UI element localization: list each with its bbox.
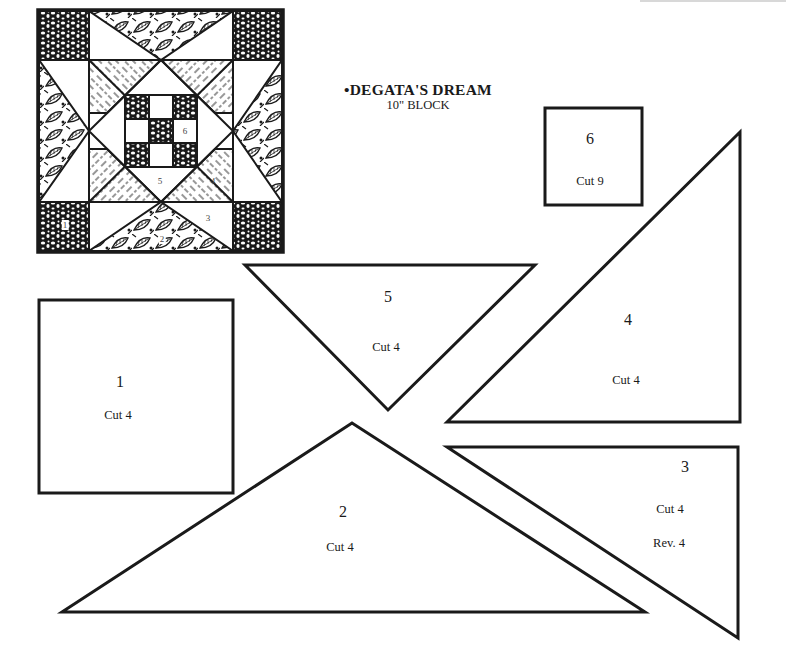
block-label-6: 6 [183, 126, 188, 136]
piece-1-template [39, 300, 233, 493]
piece-6-cut: Cut 9 [576, 174, 603, 189]
pattern-title: •DEGATA'S DREAM 10" BLOCK [318, 82, 518, 111]
piece-2-cut: Cut 4 [326, 540, 353, 555]
piece-6-template [545, 108, 642, 205]
pattern-name: •DEGATA'S DREAM [318, 82, 518, 98]
piece-3-reverse: Rev. 4 [653, 536, 685, 551]
block-label-3: 3 [206, 213, 211, 223]
piece-5-number: 5 [384, 288, 392, 306]
piece-4-number: 4 [624, 311, 632, 329]
piece-3-cut: Cut 4 [656, 502, 683, 517]
piece-5-cut: Cut 4 [372, 340, 399, 355]
block-label-5: 5 [158, 176, 163, 186]
piece-4-cut: Cut 4 [612, 373, 639, 388]
block-label-1: 1 [62, 220, 69, 230]
block-label-4: 4 [211, 176, 216, 186]
piece-1-number: 1 [116, 373, 124, 391]
block-size: 10" BLOCK [318, 99, 518, 112]
block-label-2: 2 [159, 234, 166, 244]
block-diagram [38, 10, 283, 252]
piece-6-number: 6 [586, 130, 594, 148]
piece-1-cut: Cut 4 [104, 408, 131, 423]
piece-3-number: 3 [681, 458, 689, 476]
piece-2-number: 2 [339, 503, 347, 521]
